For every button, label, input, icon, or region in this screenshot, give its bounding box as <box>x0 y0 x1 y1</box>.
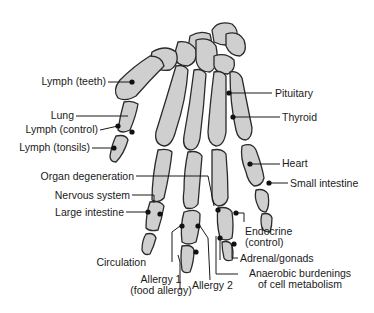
little-middle-phalanx <box>255 190 268 213</box>
label-pituitary: Pituitary <box>275 88 313 99</box>
label-small-intestine: Small intestine <box>290 178 358 189</box>
carpal-bone <box>226 33 245 56</box>
ring-middle-phalanx <box>217 208 233 241</box>
carpal-bone <box>174 42 196 66</box>
label-anaerobic: Anaerobic burdenings of cell metabolism <box>238 268 362 290</box>
index-distal-phalanx <box>142 234 156 255</box>
label-anaerobic-line2: of cell metabolism <box>238 279 362 290</box>
label-endocrine-line2: (control) <box>245 237 292 248</box>
little-metacarpal <box>230 72 252 140</box>
label-thyroid: Thyroid <box>282 112 317 123</box>
middle-distal-phalanx <box>181 246 194 273</box>
index-metacarpal <box>156 66 188 147</box>
thumb-proximal-phalanx <box>118 101 138 132</box>
label-lymph-control: Lymph (control) <box>25 124 98 135</box>
thumb-metacarpal <box>115 56 164 100</box>
label-allergy-1: Allergy 1 (food allergy) <box>124 274 198 296</box>
label-lung: Lung <box>51 110 74 121</box>
label-adrenal-gonads: Adrenal/gonads <box>240 253 314 264</box>
label-lymph-teeth: Lymph (teeth) <box>42 76 106 87</box>
index-proximal-phalanx <box>152 149 172 201</box>
label-heart: Heart <box>282 158 308 169</box>
hand-diagram: Lymph (teeth) Lung Lymph (control) Lymph… <box>0 0 374 313</box>
label-nervous-system: Nervous system <box>55 190 130 201</box>
little-proximal-phalanx <box>242 145 265 186</box>
label-lymph-tonsils: Lymph (tonsils) <box>19 142 90 153</box>
label-endocrine: Endocrine (control) <box>245 226 292 248</box>
ring-metacarpal <box>208 72 226 147</box>
label-allergy-2: Allergy 2 <box>192 280 233 291</box>
label-circulation: Circulation <box>96 257 146 268</box>
ring-distal-phalanx <box>222 242 233 261</box>
label-large-intestine: Large intestine <box>55 207 124 218</box>
label-organ-degeneration: Organ degeneration <box>41 171 134 182</box>
middle-proximal-phalanx <box>183 152 202 209</box>
label-allergy-1-line2: (food allergy) <box>124 285 198 296</box>
ring-proximal-phalanx <box>212 150 228 207</box>
